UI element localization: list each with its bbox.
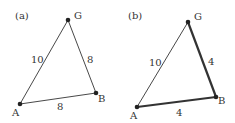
node-g-label: G [194,11,202,22]
panel-a: (a) G A B 10 8 8 [11,10,105,118]
node-a [135,105,140,110]
panel-b-label: (b) [128,10,142,21]
edge-a-b-weight: 4 [176,107,182,118]
edge-a-b-bold [137,97,216,107]
edge-g-b-weight: 4 [208,56,214,67]
node-g [186,20,191,25]
node-b-label: B [98,93,105,104]
node-g-label: G [74,10,82,21]
edge-a-g [137,22,188,107]
edge-a-b-weight: 8 [57,101,63,112]
triangle-graph-diagram: (a) G A B 10 8 8 (b) G A B 10 4 4 [0,0,235,123]
edge-a-g [20,20,68,104]
node-a-label: A [11,107,20,118]
node-a-label: A [129,110,138,121]
edge-g-b-weight: 8 [87,54,93,65]
panel-b: (b) G A B 10 4 4 [128,10,225,121]
node-g [66,18,71,23]
node-b-label: B [218,95,225,106]
edge-a-g-weight: 10 [149,57,162,68]
node-a [18,102,23,107]
panel-a-label: (a) [15,10,29,21]
edge-a-g-weight: 10 [31,54,44,65]
